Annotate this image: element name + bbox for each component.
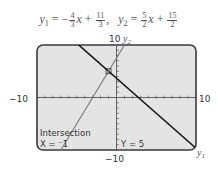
x-min-label: −10 (9, 94, 28, 104)
intersection-heading: Intersection (40, 128, 91, 138)
x-max-label: 10 (199, 94, 211, 104)
y-min-label: −10 (105, 154, 124, 164)
intersection-y-readout: Y = 5 (120, 139, 144, 149)
series-label-y2: y2 (122, 33, 131, 46)
y-max-label: 10 (109, 34, 121, 44)
intersection-x-readout: X = ⁻1 (40, 139, 68, 149)
calculator-graph: −10 10 10 −10 y2 y1 Intersection X = ⁻1 … (0, 0, 218, 172)
series-label-y1: y1 (196, 147, 205, 160)
